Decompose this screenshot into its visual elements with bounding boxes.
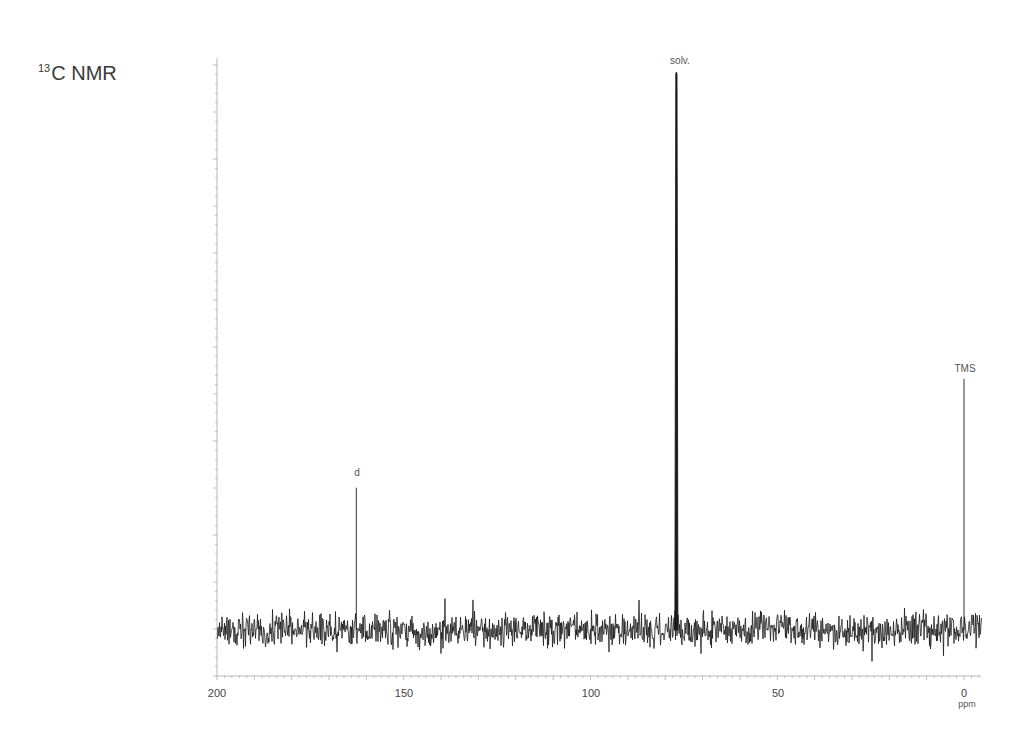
x-axis: [217, 676, 981, 680]
peak-label-solvent: solv.: [670, 55, 690, 66]
y-axis: [213, 58, 217, 676]
nmr-spectrum-plot: 200 150 100 50 0 ppm d solv. TMS: [0, 0, 1026, 742]
x-tick-labels: 200 150 100 50 0 ppm: [208, 687, 976, 709]
x-tick-label-50: 50: [772, 687, 784, 699]
peak-labels: d solv. TMS: [354, 55, 976, 478]
peak-solvent: [675, 72, 678, 630]
x-tick-label-150: 150: [395, 687, 413, 699]
peaks: [356, 72, 964, 630]
spectrum-trace: [217, 599, 982, 662]
x-tick-label-200: 200: [208, 687, 226, 699]
peak-label-d: d: [354, 467, 360, 478]
x-tick-label-100: 100: [582, 687, 600, 699]
peak-label-tms: TMS: [954, 363, 975, 374]
x-tick-label-0: 0: [961, 687, 967, 699]
x-axis-unit-label: ppm: [958, 699, 976, 709]
